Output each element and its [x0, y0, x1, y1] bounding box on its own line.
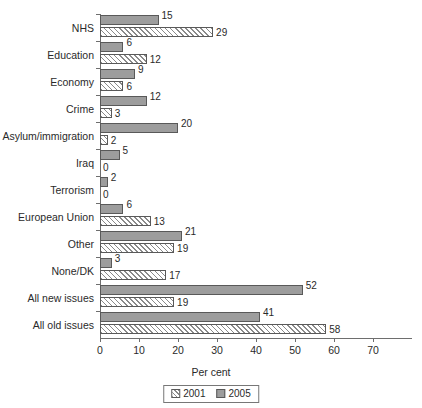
- bar-2005: [100, 150, 120, 160]
- x-axis-tick: [217, 338, 218, 342]
- bar-value-label: 0: [103, 163, 109, 173]
- bar-value-label: 15: [162, 11, 173, 21]
- bar-row: Asylum/immigration202: [100, 122, 412, 149]
- bar-2001: [100, 108, 112, 118]
- category-label: Asylum/immigration: [2, 130, 94, 142]
- category-label: None/DK: [51, 265, 94, 277]
- bar-row: All old issues4158: [100, 311, 412, 338]
- x-axis-tick: [139, 338, 140, 342]
- bar-2005: [100, 312, 260, 322]
- bar-value-label: 17: [169, 271, 180, 281]
- x-axis-tick-label: 0: [97, 344, 103, 356]
- category-label: European Union: [18, 211, 94, 223]
- bar-value-label: 12: [150, 55, 161, 65]
- x-axis-tick-label: 30: [211, 344, 223, 356]
- legend-item-2005: 2005: [217, 388, 251, 399]
- bar-value-label: 29: [216, 28, 227, 38]
- x-axis-tick: [100, 338, 101, 342]
- bar-value-label: 19: [177, 244, 188, 254]
- bar-2001: [100, 243, 174, 253]
- bar-2005: [100, 42, 123, 52]
- bar-value-label: 20: [181, 119, 192, 129]
- legend-swatch-2001-icon: [171, 389, 180, 398]
- bar-row: Crime123: [100, 95, 412, 122]
- legend-label-2005: 2005: [229, 388, 251, 399]
- bar-2005: [100, 177, 108, 187]
- bar-2001: [100, 81, 123, 91]
- bar-value-label: 2: [111, 136, 117, 146]
- bar-value-label: 2: [111, 173, 117, 183]
- bar-value-label: 12: [150, 92, 161, 102]
- bar-chart: NHS1529Education612Economy96Crime123Asyl…: [0, 0, 422, 408]
- bar-row: European Union613: [100, 203, 412, 230]
- bar-2001: [100, 216, 151, 226]
- category-label: Education: [47, 49, 94, 61]
- bar-value-label: 21: [185, 227, 196, 237]
- x-axis-tick: [295, 338, 296, 342]
- x-axis-tick-label: 60: [328, 344, 340, 356]
- legend-item-2001: 2001: [171, 388, 205, 399]
- bar-value-label: 52: [306, 281, 317, 291]
- bar-value-label: 6: [126, 82, 132, 92]
- bar-value-label: 6: [126, 200, 132, 210]
- category-label: Iraq: [76, 157, 94, 169]
- bar-2005: [100, 258, 112, 268]
- x-axis-tick-label: 40: [250, 344, 262, 356]
- bar-value-label: 9: [138, 65, 144, 75]
- bar-row: Terrorism20: [100, 176, 412, 203]
- category-label: Terrorism: [50, 184, 94, 196]
- category-label: Economy: [50, 76, 94, 88]
- bar-row: Iraq50: [100, 149, 412, 176]
- bar-value-label: 41: [263, 308, 274, 318]
- bar-row: Other2119: [100, 230, 412, 257]
- x-axis-tick: [256, 338, 257, 342]
- bar-2005: [100, 96, 147, 106]
- x-axis-title: Per cent: [0, 366, 422, 378]
- bar-value-label: 0: [103, 190, 109, 200]
- bar-value-label: 3: [115, 109, 121, 119]
- legend-label-2001: 2001: [183, 388, 205, 399]
- bar-2001: [100, 54, 147, 64]
- bar-2005: [100, 123, 178, 133]
- category-label: Other: [68, 238, 94, 250]
- bar-row: Education612: [100, 41, 412, 68]
- bar-row: None/DK317: [100, 257, 412, 284]
- bar-value-label: 5: [123, 146, 129, 156]
- category-label: Crime: [66, 103, 94, 115]
- bar-value-label: 13: [154, 217, 165, 227]
- bar-2005: [100, 231, 182, 241]
- x-axis-tick: [373, 338, 374, 342]
- x-axis-tick: [178, 338, 179, 342]
- bar-row: NHS1529: [100, 14, 412, 41]
- bar-2005: [100, 204, 123, 214]
- bar-2001: [100, 27, 213, 37]
- bar-2005: [100, 69, 135, 79]
- bar-row: All new issues5219: [100, 284, 412, 311]
- bar-2001: [100, 270, 166, 280]
- category-label: All new issues: [27, 292, 94, 304]
- legend-swatch-2005-icon: [217, 389, 226, 398]
- bar-row: Economy96: [100, 68, 412, 95]
- bar-2005: [100, 15, 159, 25]
- legend: 2001 2005: [163, 385, 259, 403]
- bar-value-label: 3: [115, 254, 121, 264]
- bar-2001: [100, 135, 108, 145]
- bar-2001: [100, 324, 326, 334]
- x-axis-tick: [334, 338, 335, 342]
- bar-2001: [100, 297, 174, 307]
- category-label: All old issues: [33, 319, 94, 331]
- bar-2005: [100, 285, 303, 295]
- category-label: NHS: [72, 22, 94, 34]
- x-axis-tick-label: 20: [172, 344, 184, 356]
- bar-value-label: 58: [329, 325, 340, 335]
- x-axis-tick-label: 70: [367, 344, 379, 356]
- x-axis-tick-label: 50: [289, 344, 301, 356]
- bar-value-label: 19: [177, 298, 188, 308]
- bar-value-label: 6: [126, 38, 132, 48]
- x-axis-tick-label: 10: [133, 344, 145, 356]
